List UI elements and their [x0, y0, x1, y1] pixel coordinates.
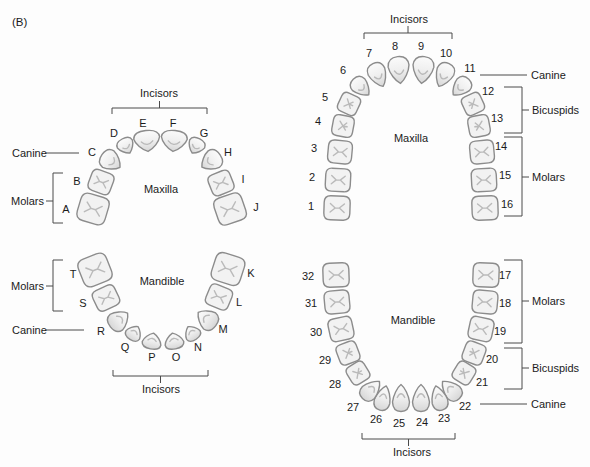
tooth-32: [323, 263, 350, 288]
tooth-5: [336, 91, 363, 118]
group-label-molars: Molars: [11, 280, 45, 292]
tooth-label-3: 3: [311, 142, 317, 154]
tooth-label-E: E: [139, 117, 146, 129]
tooth-K: [209, 251, 246, 288]
group-label-bicuspids: Bicuspids: [532, 104, 580, 116]
group-label-molars: Molars: [11, 195, 45, 207]
tooth-label-O: O: [172, 351, 181, 363]
tooth-label-15: 15: [499, 169, 511, 181]
tooth-label-9: 9: [418, 40, 424, 52]
tooth-label-G: G: [200, 127, 209, 139]
tooth-label-P: P: [148, 351, 155, 363]
tooth-2: [325, 168, 351, 192]
tooth-1: [324, 196, 351, 221]
tooth-O: [163, 331, 185, 350]
tooth-14: [469, 139, 495, 164]
tooth-label-4: 4: [315, 115, 321, 127]
bracket-bicuspids: [504, 348, 529, 389]
tooth-15: [471, 168, 497, 192]
tooth-4: [331, 114, 356, 139]
tooth-label-14: 14: [495, 140, 507, 152]
tooth-label-K: K: [247, 267, 255, 279]
group-label-canine: Canine: [531, 69, 566, 81]
tooth-outline: [160, 129, 188, 153]
tooth-label-13: 13: [491, 112, 503, 124]
primary-mandible: KLMNOPQRSTMandibleMolarsCanineIncisors: [11, 251, 255, 395]
tooth-label-11: 11: [464, 62, 475, 74]
tooth-label-2: 2: [309, 171, 315, 183]
tooth-label-24: 24: [416, 416, 428, 428]
permanent-mandible-arch-label: Mandible: [391, 314, 436, 326]
primary-maxilla-arch-label: Maxilla: [144, 183, 179, 195]
tooth-outline: [141, 331, 163, 350]
bracket-molars: [46, 260, 63, 311]
tooth-30: [327, 315, 355, 343]
figure-label: (B): [12, 16, 28, 28]
tooth-label-J: J: [253, 201, 259, 213]
group-label-molars: Molars: [532, 295, 566, 307]
tooth-outline: [387, 55, 411, 84]
tooth-E: [133, 129, 161, 153]
tooth-label-8: 8: [392, 40, 398, 52]
tooth-label-D: D: [110, 127, 118, 139]
dental-chart: ABCDEFGHIJMaxillaIncisorsCanineMolarsKLM…: [0, 0, 590, 467]
tooth-label-C: C: [88, 146, 96, 158]
tooth-label-S: S: [79, 297, 86, 309]
tooth-label-25: 25: [393, 417, 405, 429]
tooth-label-32: 32: [302, 270, 314, 282]
tooth-label-26: 26: [370, 413, 382, 425]
tooth-31: [323, 289, 350, 314]
tooth-label-29: 29: [319, 354, 331, 366]
tooth-label-5: 5: [322, 91, 328, 103]
group-label-incisors: Incisors: [142, 383, 180, 395]
group-label-incisors: Incisors: [390, 13, 428, 25]
group-label-canine: Canine: [12, 324, 47, 336]
tooth-18: [471, 289, 498, 314]
tooth-label-I: I: [241, 173, 244, 185]
group-label-bicuspids: Bicuspids: [532, 362, 580, 374]
tooth-label-18: 18: [499, 297, 511, 309]
permanent-maxilla: 12345678910111213141516MaxillaIncisorsCa…: [308, 13, 580, 220]
group-label-molars: Molars: [532, 171, 566, 183]
tooth-label-7: 7: [366, 47, 372, 59]
tooth-label-F: F: [170, 117, 177, 129]
tooth-3: [327, 139, 353, 164]
tooth-L: [204, 282, 235, 312]
tooth-label-Q: Q: [121, 341, 130, 353]
group-label-incisors: Incisors: [140, 87, 178, 99]
permanent-mandible: 17181920212223242526272829303132Mandible…: [302, 260, 580, 458]
tooth-label-12: 12: [482, 85, 494, 97]
tooth-label-1: 1: [308, 200, 314, 212]
figure-container: ABCDEFGHIJMaxillaIncisorsCanineMolarsKLM…: [0, 0, 590, 467]
tooth-outline: [163, 331, 185, 350]
tooth-label-N: N: [194, 341, 202, 353]
tooth-19: [467, 315, 495, 343]
tooth-outline: [393, 385, 410, 412]
tooth-P: [141, 331, 163, 350]
tooth-16: [472, 196, 499, 221]
tooth-label-T: T: [70, 268, 77, 280]
tooth-8: [387, 55, 411, 84]
tooth-label-20: 20: [486, 353, 498, 365]
tooth-25: [393, 385, 410, 412]
tooth-9: [411, 55, 435, 84]
tooth-label-10: 10: [440, 47, 452, 59]
tooth-label-16: 16: [501, 198, 513, 210]
tooth-B: [86, 168, 115, 197]
tooth-label-27: 27: [347, 401, 359, 413]
group-label-incisors: Incisors: [393, 446, 431, 458]
tooth-label-17: 17: [499, 269, 511, 281]
tooth-label-28: 28: [329, 378, 341, 390]
tooth-label-B: B: [73, 175, 80, 187]
primary-maxilla: ABCDEFGHIJMaxillaIncisorsCanineMolars: [11, 87, 259, 227]
tooth-label-H: H: [224, 146, 232, 158]
group-label-canine: Canine: [531, 398, 566, 410]
tooth-label-19: 19: [494, 325, 506, 337]
tooth-T: [76, 251, 115, 289]
tooth-A: [75, 191, 111, 226]
bracket-incisors: [362, 433, 455, 446]
tooth-F: [160, 129, 188, 153]
tooth-S: [90, 283, 121, 313]
tooth-label-M: M: [218, 323, 227, 335]
tooth-outline: [413, 385, 430, 412]
